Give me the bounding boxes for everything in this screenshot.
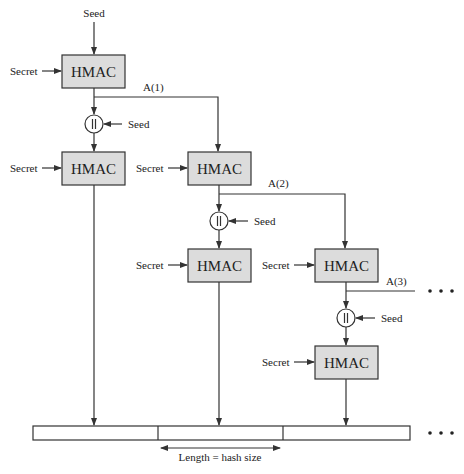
concat-node-2 (210, 212, 228, 230)
concat-node-1 (85, 115, 103, 133)
hmac-label: HMAC (197, 258, 242, 274)
hmac-label: HMAC (197, 161, 242, 177)
hmac-label: HMAC (324, 258, 369, 274)
secret-label: Secret (262, 356, 289, 368)
hmac-block-a1: HMAC (62, 55, 125, 88)
seed-label: Seed (254, 215, 276, 227)
hmac-block-out3: HMAC (315, 346, 378, 379)
hmac-block-a3: HMAC (315, 249, 378, 282)
hmac-label: HMAC (324, 355, 369, 371)
hmac-block-out2: HMAC (188, 249, 251, 282)
secret-label: Secret (136, 259, 163, 271)
hmac-block-out1: HMAC (62, 152, 125, 185)
a1-label: A(1) (143, 81, 164, 94)
seed-label: Seed (381, 312, 403, 324)
seed-label: Seed (128, 118, 150, 130)
output-bar (33, 426, 410, 440)
hmac-label: HMAC (71, 161, 116, 177)
hmac-label: HMAC (71, 64, 116, 80)
p-hash-diagram: Seed HMAC Secret A(1) Seed HMAC Secret H… (0, 0, 464, 474)
secret-label: Secret (136, 162, 163, 174)
continuation-dots-top (428, 289, 454, 293)
secret-label: Secret (10, 65, 37, 77)
concat-node-3 (337, 309, 355, 327)
secret-label: Secret (262, 259, 289, 271)
a3-label: A(3) (386, 275, 407, 288)
secret-label: Secret (10, 162, 37, 174)
hmac-block-a2: HMAC (188, 152, 251, 185)
length-label: Length = hash size (179, 451, 262, 463)
continuation-dots-bottom (428, 431, 454, 435)
top-seed-label: Seed (83, 7, 105, 19)
a2-label: A(2) (268, 177, 289, 190)
